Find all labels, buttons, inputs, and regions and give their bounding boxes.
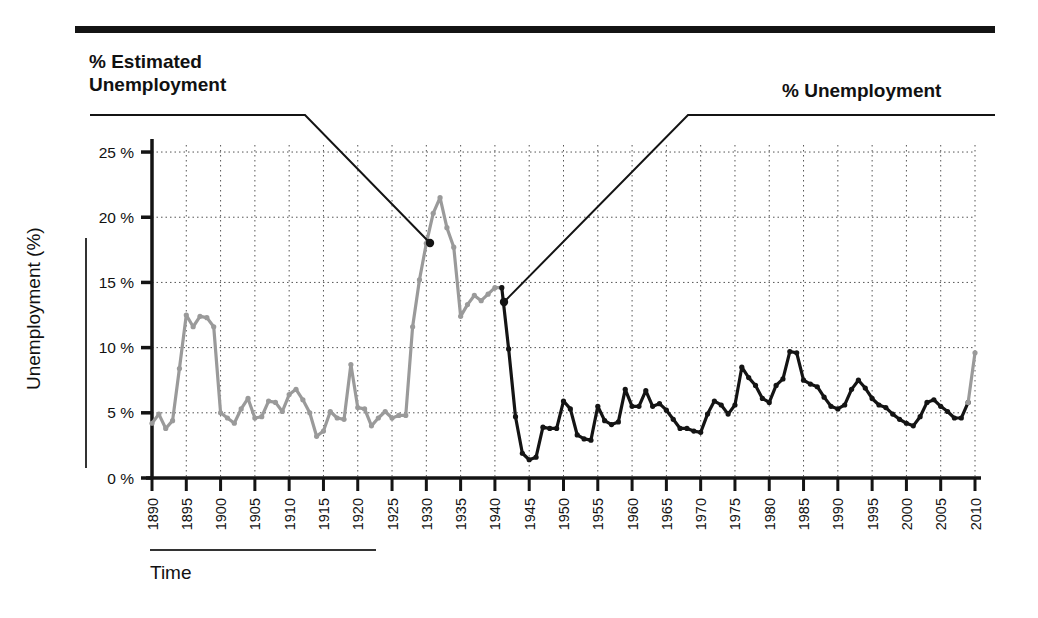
data-point-marker <box>547 426 552 431</box>
data-point-marker <box>225 415 230 420</box>
axes-layer <box>141 139 981 491</box>
x-tick-label: 1955 <box>590 498 606 530</box>
data-point-marker <box>801 378 806 383</box>
data-point-marker <box>348 362 353 367</box>
leader-endpoint-dot <box>426 239 434 247</box>
data-point-marker <box>444 225 449 230</box>
data-point-marker <box>293 387 298 392</box>
x-tick-label: 1900 <box>213 498 229 530</box>
data-point-marker <box>876 402 881 407</box>
y-tick-label: 20 % <box>99 209 135 226</box>
data-point-marker <box>643 388 648 393</box>
x-tick-label: 1995 <box>865 498 881 530</box>
data-point-marker <box>259 414 264 419</box>
data-point-marker <box>945 409 950 414</box>
data-point-marker <box>396 413 401 418</box>
x-tick-label: 1930 <box>419 498 435 530</box>
data-point-marker <box>794 350 799 355</box>
data-point-marker <box>561 398 566 403</box>
x-tick-label: 1980 <box>762 498 778 530</box>
axis-title-layer: Unemployment (%) <box>23 227 86 468</box>
data-point-marker <box>780 376 785 381</box>
data-point-marker <box>623 387 628 392</box>
y-tick-label: 25 % <box>99 144 135 161</box>
x-tick-label: 1990 <box>830 498 846 530</box>
data-point-marker <box>575 432 580 437</box>
data-point-marker <box>698 430 703 435</box>
data-point-marker <box>485 292 490 297</box>
data-point-marker <box>341 417 346 422</box>
data-point-marker <box>321 428 326 433</box>
data-point-marker <box>458 314 463 319</box>
data-point-marker <box>211 324 216 329</box>
data-point-marker <box>239 406 244 411</box>
data-point-marker <box>479 298 484 303</box>
data-point-marker <box>897 417 902 422</box>
data-point-marker <box>842 402 847 407</box>
x-axis-title: Time <box>150 562 192 584</box>
data-point-marker <box>760 396 765 401</box>
data-point-marker <box>376 415 381 420</box>
data-point-marker <box>383 409 388 414</box>
data-point-marker <box>918 414 923 419</box>
data-point-marker <box>650 404 655 409</box>
data-point-marker <box>314 434 319 439</box>
data-point-marker <box>629 404 634 409</box>
data-point-marker <box>403 413 408 418</box>
data-point-marker <box>787 349 792 354</box>
data-point-marker <box>163 426 168 431</box>
x-axis-title-rule <box>150 549 376 551</box>
data-point-marker <box>520 451 525 456</box>
x-tick-label: 1985 <box>796 498 812 530</box>
data-point-marker <box>280 409 285 414</box>
data-point-marker <box>739 365 744 370</box>
data-point-marker <box>218 410 223 415</box>
data-point-marker <box>636 404 641 409</box>
x-tick-label: 2005 <box>933 498 949 530</box>
data-point-marker <box>746 375 751 380</box>
data-point-marker <box>767 400 772 405</box>
data-point-marker <box>307 410 312 415</box>
chart-svg: 0 %5 %10 %15 %20 %25 %189018951900190519… <box>0 0 1038 618</box>
data-point-marker <box>335 415 340 420</box>
data-point-marker <box>417 277 422 282</box>
x-tick-label: 1965 <box>659 498 675 530</box>
x-tick-label: 2000 <box>899 498 915 530</box>
data-point-marker <box>300 397 305 402</box>
data-point-marker <box>966 400 971 405</box>
data-point-marker <box>856 378 861 383</box>
data-point-marker <box>924 400 929 405</box>
data-point-marker <box>273 400 278 405</box>
data-point-marker <box>355 405 360 410</box>
annotation-leader-layer <box>90 115 995 306</box>
data-point-marker <box>472 293 477 298</box>
x-tick-label: 1970 <box>693 498 709 530</box>
data-point-marker <box>410 324 415 329</box>
data-point-marker <box>266 398 271 403</box>
data-point-marker <box>664 408 669 413</box>
data-point-marker <box>465 302 470 307</box>
data-point-marker <box>184 312 189 317</box>
x-tick-label: 1935 <box>453 498 469 530</box>
data-point-marker <box>568 406 573 411</box>
data-point-marker <box>911 423 916 428</box>
data-point-marker <box>204 315 209 320</box>
data-point-marker <box>437 195 442 200</box>
data-point-marker <box>451 245 456 250</box>
unemployment-line-chart: 0 %5 %10 %15 %20 %25 %189018951900190519… <box>0 0 1038 618</box>
data-point-marker <box>177 366 182 371</box>
data-point-marker <box>252 415 257 420</box>
x-tick-label: 1915 <box>316 498 332 530</box>
data-point-marker <box>883 405 888 410</box>
data-point-marker <box>822 395 827 400</box>
x-tick-label: 1910 <box>282 498 298 530</box>
data-point-marker <box>732 402 737 407</box>
data-point-marker <box>726 412 731 417</box>
data-point-marker <box>499 285 504 290</box>
data-point-marker <box>170 418 175 423</box>
data-point-marker <box>328 409 333 414</box>
x-tick-label: 1945 <box>522 498 538 530</box>
data-point-marker <box>938 404 943 409</box>
x-tick-label: 1960 <box>625 498 641 530</box>
data-point-marker <box>287 392 292 397</box>
